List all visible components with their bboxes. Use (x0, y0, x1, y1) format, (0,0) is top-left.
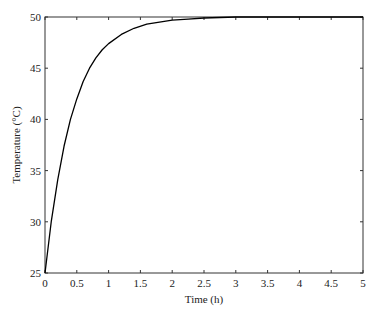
chart: 00.511.522.533.544.55 253035404550 Time … (0, 0, 378, 313)
x-tick-label: 1 (106, 277, 112, 289)
x-tick-label: 2.5 (197, 277, 211, 289)
y-tick-label: 45 (30, 62, 42, 74)
y-tick-label: 50 (30, 11, 42, 23)
x-tick-label: 4.5 (324, 277, 338, 289)
y-tick-label: 30 (30, 216, 42, 228)
x-tick-label: 2 (169, 277, 175, 289)
x-tick-label: 1.5 (134, 277, 148, 289)
x-tick-label: 5 (360, 277, 366, 289)
x-tick-label: 4 (297, 277, 303, 289)
x-axis-ticks: 00.511.522.533.544.55 (42, 17, 366, 289)
x-axis-label: Time (h) (185, 293, 224, 306)
y-axis-label: Temperature (°C) (10, 106, 23, 184)
y-tick-label: 40 (30, 113, 42, 125)
series-line-temperature (45, 17, 363, 273)
x-tick-label: 0.5 (70, 277, 84, 289)
plot-frame (45, 17, 363, 273)
y-tick-label: 25 (30, 267, 42, 279)
x-tick-label: 3 (233, 277, 239, 289)
x-tick-label: 0 (42, 277, 48, 289)
y-tick-label: 35 (30, 165, 42, 177)
y-axis-ticks: 253035404550 (30, 11, 363, 279)
x-tick-label: 3.5 (261, 277, 275, 289)
series-layer (45, 17, 363, 273)
